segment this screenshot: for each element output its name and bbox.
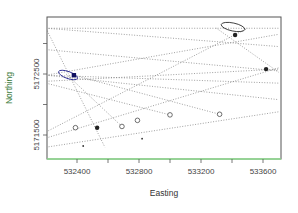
- data-point: [135, 118, 140, 123]
- data-point: [168, 113, 173, 118]
- y-tick-label: 5172500: [32, 58, 41, 90]
- x-axis: 532400532800533200533600: [64, 159, 277, 176]
- data-point: [82, 145, 84, 147]
- bearing-line: [46, 68, 279, 138]
- error-ellipse-right: [220, 21, 245, 34]
- data-point: [217, 112, 222, 117]
- y-axis: 51715005172500: [32, 44, 47, 151]
- data-point: [73, 125, 78, 130]
- x-tick-label: 532800: [126, 167, 153, 176]
- y-tick-label: 5171500: [32, 119, 41, 151]
- bearing-lines: [46, 28, 279, 147]
- bearing-line: [46, 75, 279, 99]
- bearing-line: [46, 34, 279, 75]
- plot-frame: [47, 17, 281, 159]
- x-tick-label: 532400: [64, 167, 91, 176]
- bearing-line: [46, 83, 170, 115]
- x-tick-label: 533600: [250, 167, 277, 176]
- x-axis-title: Easting: [150, 188, 179, 198]
- data-point: [95, 125, 99, 129]
- bearing-line: [46, 112, 279, 147]
- data-point: [120, 124, 125, 129]
- x-tick-label: 533200: [188, 167, 215, 176]
- bearing-line: [46, 69, 279, 81]
- bearing-line: [66, 74, 122, 126]
- scatter-chart: 532400532800533200533600 51715005172500 …: [0, 0, 298, 213]
- data-point: [72, 73, 76, 77]
- data-point: [264, 67, 268, 71]
- bearing-line: [46, 28, 248, 132]
- data-points: [72, 33, 269, 147]
- error-ellipses: [57, 21, 245, 82]
- data-point: [233, 33, 237, 37]
- bearing-line: [217, 28, 279, 72]
- bearing-line: [74, 75, 220, 114]
- bearing-line: [46, 75, 279, 83]
- y-axis-title: Northing: [4, 72, 14, 104]
- bearing-line: [46, 50, 279, 71]
- data-point: [141, 138, 143, 140]
